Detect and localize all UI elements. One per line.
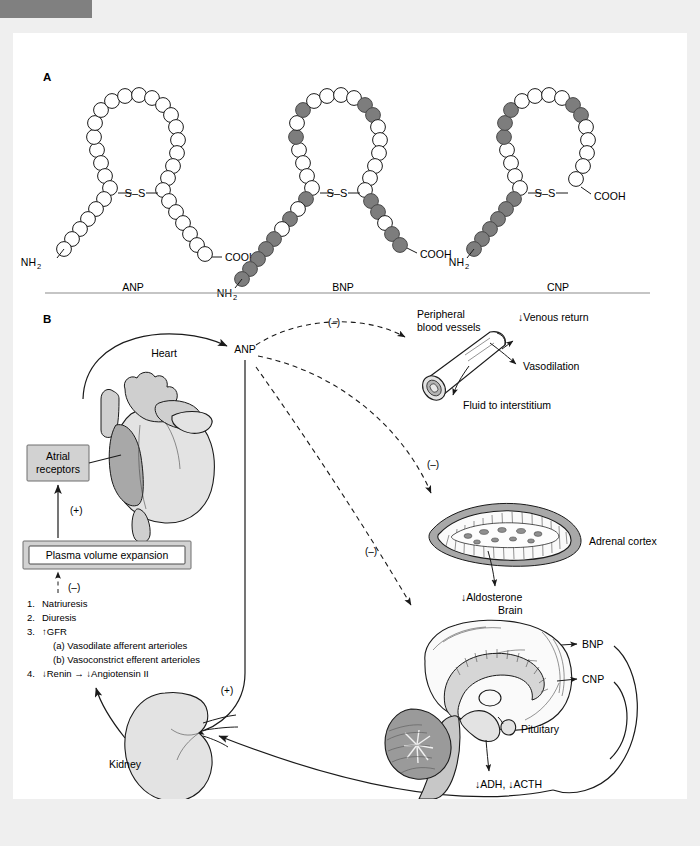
cnp-return-path — [610, 682, 627, 759]
fluid-to-interstitium-label: Fluid to interstitium — [463, 399, 551, 411]
sign-minus-brain: (–) — [365, 546, 377, 557]
brain-illustration: Brain — [385, 604, 637, 799]
anp-name-label: ANP — [122, 281, 144, 293]
cnp-backbone — [467, 88, 596, 257]
renal-effect-text-3a: (a) Vasodilate afferent arterioles — [53, 640, 188, 651]
cnp-output-label: CNP — [582, 673, 604, 685]
figure-canvas: A — [13, 33, 687, 799]
adrenal-cortex-illustration: Adrenal cortex ↓Aldosterone — [429, 503, 657, 603]
renal-effect-number-1: 1. — [27, 598, 35, 609]
anp-node-label: ANP — [234, 343, 256, 355]
anp-n-terminus-subscript: 2 — [37, 262, 41, 271]
aldosterone-label: ↓Aldosterone — [461, 591, 522, 603]
brain-label: Brain — [498, 604, 523, 616]
atrial-receptors-label-line1: Atrial — [46, 450, 70, 462]
renal-effect-number-3: 3. — [27, 626, 35, 637]
figure-sheet: A — [13, 33, 687, 799]
sign-minus-vessels: (–) — [328, 317, 340, 328]
sign-plus-receptors: (+) — [70, 505, 83, 516]
renal-effect-number-4: 4. — [27, 668, 35, 679]
cnp-n-terminus-subscript: 2 — [465, 262, 469, 271]
adrenal-cortex-label: Adrenal cortex — [589, 535, 657, 547]
corner-tab — [0, 0, 92, 18]
plasma-volume-label: Plasma volume expansion — [46, 549, 169, 561]
sign-minus-adrenal: (–) — [427, 459, 439, 470]
renal-effect-text-1: Natriuresis — [42, 598, 88, 609]
adh-acth-label: ↓ADH, ↓ACTH — [475, 778, 542, 790]
cnp-c-terminus-label: COOH — [594, 190, 626, 202]
panel-a-letter: A — [43, 71, 51, 83]
arrow-kidney-to-effects — [96, 688, 125, 738]
peptide-bnp: S–S NH 2 COOH BNP — [217, 88, 452, 302]
arrow-anp-to-brain — [256, 367, 411, 605]
arrow-anp-to-adrenal — [258, 356, 431, 493]
bnp-output-label: BNP — [582, 638, 604, 650]
renal-effects-list: 1. Natriuresis 2. Diuresis 3. ↑GFR (a) V… — [27, 598, 200, 679]
arrow-to-adh-acth — [486, 740, 489, 771]
anp-backbone — [57, 88, 213, 262]
bnp-disulfide-label: S–S — [327, 187, 348, 199]
atrial-receptors-label-line2: receptors — [36, 463, 80, 475]
bnp-n-terminus-subscript: 2 — [233, 293, 237, 302]
panel-b-letter: B — [43, 313, 51, 325]
bnp-backbone — [235, 88, 408, 287]
arrow-brain-to-bnp — [561, 644, 577, 645]
cnp-disulfide-label: S–S — [535, 187, 556, 199]
renal-effect-text-3: ↑GFR — [42, 626, 67, 637]
panel-b: B — [23, 308, 657, 799]
sign-plus-kidney: (+) — [221, 685, 234, 696]
renal-effect-text-2: Diuresis — [42, 612, 77, 623]
bnp-name-label: BNP — [332, 281, 354, 293]
peptide-cnp: S–S NH 2 COOH CNP — [449, 88, 626, 293]
plasma-volume-box[interactable]: Plasma volume expansion — [23, 541, 191, 569]
anp-n-terminus-label: NH — [21, 256, 36, 268]
blood-vessel-illustration: Peripheral blood vessels ↓Venous return … — [417, 308, 589, 411]
kidney-illustration: Kidney — [109, 693, 238, 799]
heart-illustration: Heart — [101, 347, 214, 542]
bnp-c-terminus-label: COOH — [420, 248, 452, 260]
cnp-name-label: CNP — [547, 281, 569, 293]
renal-effect-text-4: ↓Renin → ↓Angiotensin II — [42, 668, 149, 679]
heart-label: Heart — [151, 347, 177, 359]
kidney-label: Kidney — [109, 758, 142, 770]
panel-a: A — [21, 71, 626, 302]
atrial-receptors-box[interactable]: Atrial receptors — [27, 445, 89, 481]
renal-effect-number-2: 2. — [27, 612, 35, 623]
peptide-anp: S–S NH 2 COOH ANP — [21, 88, 257, 293]
pituitary-label: Pituitary — [521, 723, 560, 735]
sign-minus-plasma: (–) — [68, 582, 80, 593]
renal-effect-text-3b: (b) Vasoconstrict efferent arterioles — [53, 654, 200, 665]
vasodilation-label: Vasodilation — [523, 360, 580, 372]
peripheral-vessels-label-line1: Peripheral — [417, 308, 465, 320]
cnp-n-terminus-label: NH — [449, 256, 464, 268]
venous-return-label: ↓Venous return — [518, 311, 589, 323]
anp-disulfide-label: S–S — [125, 187, 146, 199]
figure-page: A — [0, 0, 700, 846]
peripheral-vessels-label-line2: blood vessels — [417, 321, 481, 333]
